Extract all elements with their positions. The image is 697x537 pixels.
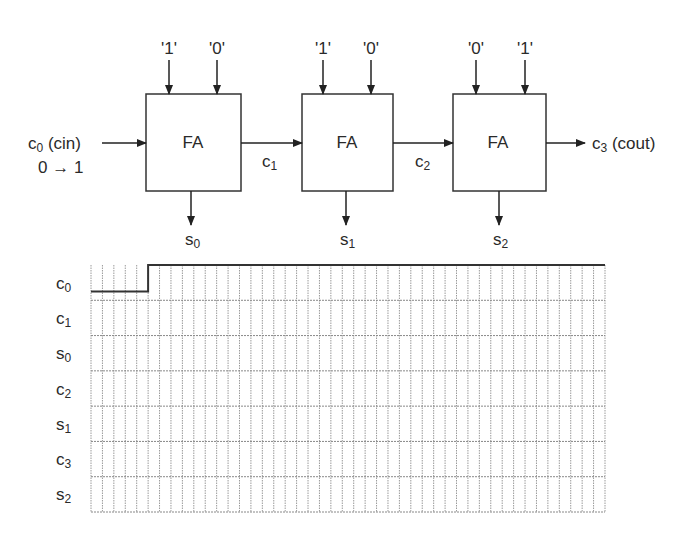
full-adder-block-1: FA bbox=[146, 60, 241, 225]
svg-text:'1': '1' bbox=[161, 39, 177, 58]
input-labels: '1' '0' '1' '0' '0' '1' bbox=[161, 39, 533, 58]
signal-label-c1: c1 bbox=[56, 309, 72, 330]
s0-label: s0 bbox=[185, 230, 201, 251]
timing-diagram-grid bbox=[91, 265, 605, 512]
block-label: FA bbox=[183, 133, 204, 152]
cout-label: c3 (cout) bbox=[592, 134, 655, 155]
svg-text:'0': '0' bbox=[468, 39, 484, 58]
s1-label: s1 bbox=[340, 230, 356, 251]
signal-label-s2: s2 bbox=[56, 485, 72, 506]
block-label: FA bbox=[337, 133, 358, 152]
cin-label: c0 (cin) bbox=[28, 134, 81, 155]
ripple-carry-diagram: FA FA FA '1' '0' '1' '0' '0' '1' c0 (cin… bbox=[0, 0, 697, 537]
full-adder-block-3: FA bbox=[453, 60, 546, 225]
block-label: FA bbox=[488, 133, 509, 152]
svg-text:'0': '0' bbox=[209, 39, 225, 58]
c1-label: c1 bbox=[262, 152, 278, 173]
svg-text:'0': '0' bbox=[363, 39, 379, 58]
signal-label-s0: s0 bbox=[56, 344, 72, 365]
timing-signal-labels: c0c1s0c2s1c3s2 bbox=[56, 274, 72, 507]
cin-transition: 0 → 1 bbox=[38, 158, 83, 177]
signal-label-c2: c2 bbox=[56, 380, 72, 401]
signal-label-c3: c3 bbox=[56, 450, 72, 471]
signal-label-c0: c0 bbox=[56, 274, 72, 295]
svg-text:'1': '1' bbox=[315, 39, 331, 58]
svg-text:'1': '1' bbox=[517, 39, 533, 58]
c0-waveform bbox=[91, 265, 605, 291]
full-adder-block-2: FA bbox=[302, 60, 393, 225]
c2-label: c2 bbox=[415, 152, 431, 173]
signal-label-s1: s1 bbox=[56, 415, 72, 436]
s2-label: s2 bbox=[493, 230, 509, 251]
